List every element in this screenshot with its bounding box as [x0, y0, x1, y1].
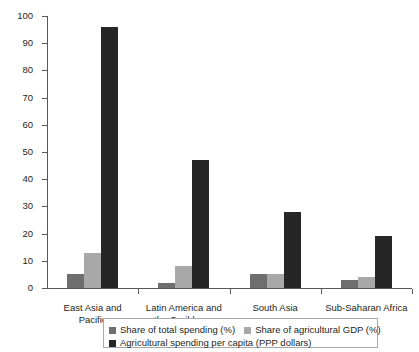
legend-row-top: Share of total spending (%) Share of agr…	[109, 321, 381, 334]
y-tick-40	[42, 179, 47, 180]
y-tick-60	[42, 125, 47, 126]
x-tick-separator-1	[138, 289, 139, 294]
x-tick-separator-4	[412, 289, 413, 294]
y-axis-line	[47, 16, 48, 288]
y-tick-label-90: 90	[0, 38, 33, 48]
bar	[358, 277, 375, 288]
bar	[67, 274, 84, 288]
bar	[101, 27, 118, 288]
bar	[284, 212, 301, 288]
y-tick-0	[42, 288, 47, 289]
bar	[175, 266, 192, 288]
legend-swatch-total-spending	[109, 327, 116, 334]
legend-item-spending-per-capita: Agricultural spending per capita (PPP do…	[109, 334, 312, 347]
legend-row-bottom: Agricultural spending per capita (PPP do…	[109, 334, 312, 347]
y-tick-label-60: 60	[0, 120, 33, 130]
plot-area: 0102030405060708090100 East Asia and Pac…	[47, 16, 412, 288]
y-tick-label-0: 0	[0, 283, 33, 293]
legend-item-total-spending: Share of total spending (%)	[109, 321, 235, 334]
legend-item-agricultural-gdp: Share of agricultural GDP (%)	[244, 321, 381, 334]
bar	[84, 253, 101, 288]
y-tick-label-30: 30	[0, 201, 33, 211]
x-axis-category-label: South Asia	[232, 302, 319, 314]
y-tick-80	[42, 70, 47, 71]
y-tick-label-50: 50	[0, 147, 33, 157]
x-tick-separator-3	[321, 289, 322, 294]
legend-swatch-spending-per-capita	[109, 340, 116, 347]
category-label-line-1: South Asia	[232, 302, 319, 314]
bar	[158, 283, 175, 288]
y-tick-90	[42, 43, 47, 44]
x-tick-separator-2	[230, 289, 231, 294]
y-tick-label-40: 40	[0, 174, 33, 184]
bar	[250, 274, 267, 288]
legend-swatch-agricultural-gdp	[244, 327, 251, 334]
y-tick-label-80: 80	[0, 65, 33, 75]
y-tick-label-70: 70	[0, 93, 33, 103]
y-tick-label-20: 20	[0, 229, 33, 239]
y-tick-label-10: 10	[0, 256, 33, 266]
category-label-line-1: Sub-Saharan Africa	[323, 302, 410, 314]
y-tick-20	[42, 234, 47, 235]
bar	[267, 274, 284, 288]
y-tick-50	[42, 152, 47, 153]
bar	[341, 280, 358, 288]
chart-legend: Share of total spending (%) Share of agr…	[103, 318, 378, 348]
y-tick-10	[42, 261, 47, 262]
y-tick-70	[42, 98, 47, 99]
y-tick-100	[42, 16, 47, 17]
x-axis-category-label: Sub-Saharan Africa	[323, 302, 410, 314]
legend-label-spending-per-capita: Agricultural spending per capita (PPP do…	[120, 337, 312, 348]
category-label-line-1: Latin America and	[140, 302, 227, 314]
y-tick-30	[42, 206, 47, 207]
bar	[375, 236, 392, 288]
bar	[192, 160, 209, 288]
y-tick-label-100: 100	[0, 11, 33, 21]
bar-chart: Percent 0102030405060708090100 East Asia…	[0, 0, 419, 352]
